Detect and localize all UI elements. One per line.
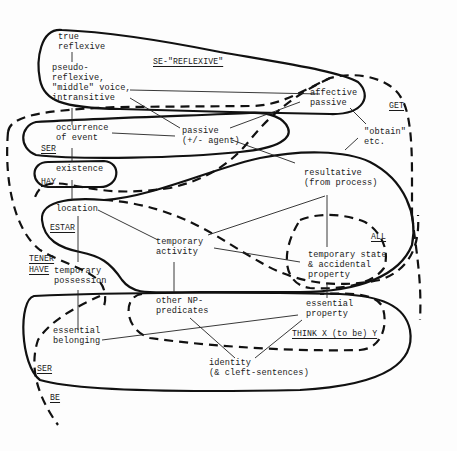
region-label-hay: HAY (41, 177, 56, 187)
region-label-get: GET (389, 101, 404, 111)
semantic-map-diagram: true reflexive pseudo- reflexive, "middl… (0, 0, 457, 451)
node-affective-passive: affective passive (310, 88, 357, 108)
region-label-have: HAVE (29, 265, 49, 275)
node-resultative: resultative (from process) (304, 168, 378, 188)
region-label-ser-bottom: SER (37, 364, 52, 374)
node-pseudo-reflexive: pseudo- reflexive, "middle" voice, intra… (52, 63, 131, 103)
region-label-se-reflexive: SE-"REFLEXIVE" (153, 57, 223, 67)
node-existence: existence (56, 164, 103, 174)
node-location: location (56, 204, 98, 214)
node-temporary-activity: temporary activity (156, 237, 203, 257)
node-essential-belonging: essential belonging (53, 326, 100, 346)
region-label-think: THINK X (to be) Y (292, 329, 377, 339)
node-other-np-predicates: other NP- predicates (156, 296, 209, 316)
region-label-tener: TENER (29, 254, 54, 264)
region-right-tail (412, 215, 420, 320)
region-be (34, 296, 100, 425)
node-obtain: "obtain" etc. (364, 127, 406, 147)
node-identity: identity (& cleft-sentences) (209, 358, 309, 378)
node-occurrence-of-event: occurrence of event (56, 123, 109, 143)
node-temporary-possession: temporary possession (54, 266, 107, 286)
node-temporary-state: temporary state & accidental property (308, 250, 387, 280)
node-essential-property: essential property (306, 299, 353, 319)
node-passive: passive (+/- agent) (182, 126, 240, 146)
region-label-ser-top: SER (41, 144, 56, 154)
region-label-all: ALL (371, 232, 386, 242)
node-true-reflexive: true reflexive (58, 32, 105, 52)
region-label-be: BE (50, 393, 60, 403)
region-label-estar: ESTAR (50, 223, 75, 233)
